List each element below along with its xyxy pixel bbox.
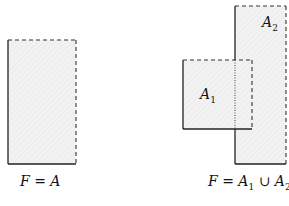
caption-left: F = A [20,173,60,189]
set-a-rectangle [8,40,76,164]
a2-label: A2 [262,14,278,33]
set-a1-rectangle [183,60,252,129]
caption-right: F = A1 ∪ A2 [208,173,289,192]
a1-label: A1 [200,86,216,105]
